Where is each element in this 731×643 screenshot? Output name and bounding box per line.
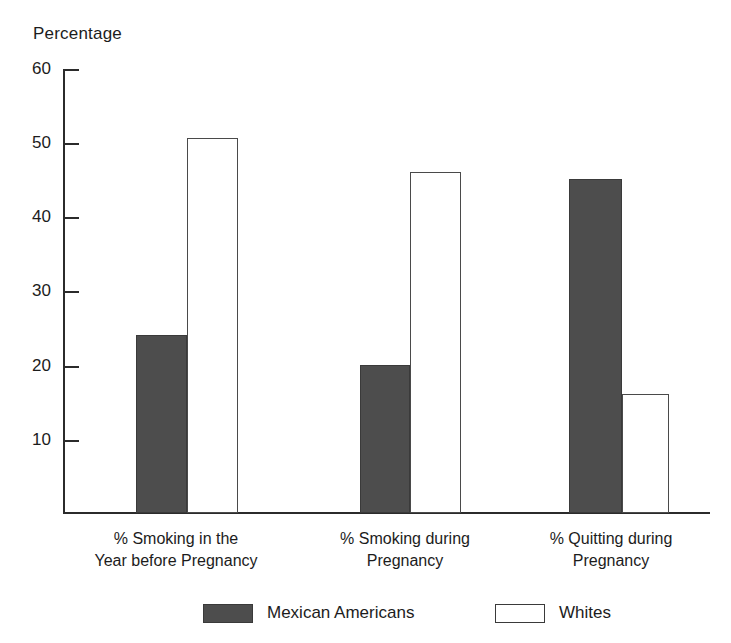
legend-item-whites: Whites xyxy=(495,603,611,623)
y-axis-title: Percentage xyxy=(33,24,122,44)
y-tick-mark-60 xyxy=(63,69,79,71)
y-tick-label-60: 60 xyxy=(32,59,51,79)
bar-whites-1 xyxy=(410,172,461,513)
x-category-label-0: % Smoking in the Year before Pregnancy xyxy=(66,528,286,572)
bar-whites-0 xyxy=(187,138,238,513)
bar-mexican-americans-2 xyxy=(569,179,622,513)
y-tick-mark-20 xyxy=(63,366,79,368)
legend-label-mexican-americans: Mexican Americans xyxy=(267,603,414,623)
x-category-label-0-line1: % Smoking in the xyxy=(66,528,286,550)
bar-chart-figure: Percentage 60 50 40 30 20 10 xyxy=(0,0,731,643)
bar-mexican-americans-0 xyxy=(136,335,187,513)
x-category-label-1: % Smoking during Pregnancy xyxy=(310,528,500,572)
bar-whites-2 xyxy=(622,394,669,513)
plot-area: 60 50 40 30 20 10 xyxy=(63,69,710,514)
x-category-label-0-line2: Year before Pregnancy xyxy=(66,550,286,572)
y-tick-mark-30 xyxy=(63,291,79,293)
y-tick-label-30: 30 xyxy=(32,281,51,301)
x-category-label-2: % Quitting during Pregnancy xyxy=(516,528,706,572)
chart-legend: Mexican Americans Whites xyxy=(0,603,731,635)
y-tick-label-40: 40 xyxy=(32,207,51,227)
legend-swatch-light-icon xyxy=(495,604,545,623)
y-tick-label-10: 10 xyxy=(32,430,51,450)
y-tick-label-50: 50 xyxy=(32,133,51,153)
x-category-label-1-line2: Pregnancy xyxy=(310,550,500,572)
legend-swatch-dark-icon xyxy=(203,604,253,623)
y-tick-mark-40 xyxy=(63,217,79,219)
y-tick-mark-50 xyxy=(63,143,79,145)
y-tick-label-20: 20 xyxy=(32,356,51,376)
x-category-label-2-line1: % Quitting during xyxy=(516,528,706,550)
bar-mexican-americans-1 xyxy=(360,365,410,513)
x-category-label-2-line2: Pregnancy xyxy=(516,550,706,572)
legend-item-mexican-americans: Mexican Americans xyxy=(203,603,414,623)
x-category-label-1-line1: % Smoking during xyxy=(310,528,500,550)
y-tick-mark-10 xyxy=(63,440,79,442)
legend-label-whites: Whites xyxy=(559,603,611,623)
